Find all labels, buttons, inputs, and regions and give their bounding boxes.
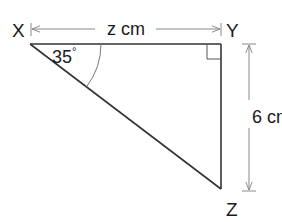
triangle-diagram: X Y Z z cm 6 cm 35° <box>0 0 282 222</box>
dimension-label-top: z cm <box>107 19 145 39</box>
dimension-label-right: 6 cm <box>252 107 282 127</box>
vertex-label-x: X <box>12 20 25 41</box>
right-angle-marker <box>207 44 221 59</box>
degree-symbol: ° <box>72 45 76 57</box>
vertex-label-y: Y <box>226 20 239 41</box>
angle-arc <box>87 44 102 87</box>
angle-label: 35° <box>52 45 76 67</box>
vertex-label-z: Z <box>226 199 238 220</box>
angle-value: 35 <box>52 47 72 67</box>
